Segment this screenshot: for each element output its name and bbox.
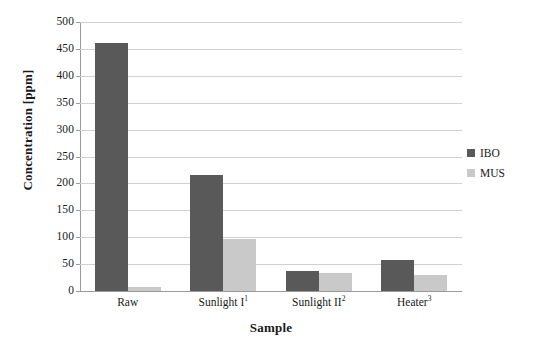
y-tick-mark <box>76 237 80 238</box>
y-tick-mark <box>76 291 80 292</box>
x-tick-label: Sunlight II2 <box>271 296 367 308</box>
x-axis-title: Sample <box>80 320 462 336</box>
legend-swatch-icon <box>467 149 475 157</box>
bar-group <box>80 22 176 291</box>
legend-label: MUS <box>480 167 505 179</box>
legend-item-ibo[interactable]: IBO <box>467 144 529 161</box>
bar-mus-3 <box>414 275 447 291</box>
bar-series-container <box>80 22 462 291</box>
bar-mus-2 <box>319 273 352 291</box>
bar-group <box>176 22 272 291</box>
chart-legend: IBOMUS <box>467 144 529 184</box>
y-tick-mark <box>76 130 80 131</box>
y-tick-label: 500 <box>28 16 74 28</box>
footnote-marker: 3 <box>428 294 432 303</box>
y-tick-mark <box>76 157 80 158</box>
legend-swatch-icon <box>467 169 475 177</box>
footnote-marker: 1 <box>244 294 248 303</box>
bar-group <box>271 22 367 291</box>
x-tick-label: Sunlight I1 <box>176 296 272 308</box>
bar-mus-0 <box>128 287 161 291</box>
x-axis-tick-labels: RawSunlight I1Sunlight II2Heater3 <box>80 296 462 308</box>
footnote-marker: 2 <box>342 294 346 303</box>
bar-ibo-1 <box>190 175 223 291</box>
x-axis-baseline <box>80 291 462 292</box>
plot-area <box>80 22 462 291</box>
bar-ibo-2 <box>286 271 319 291</box>
x-tick-label: Raw <box>80 296 176 308</box>
bar-chart-figure: 500450400350300250200150100500 RawSunlig… <box>0 0 534 361</box>
legend-item-mus[interactable]: MUS <box>467 164 529 181</box>
bar-ibo-0 <box>95 43 128 291</box>
y-tick-mark <box>76 210 80 211</box>
bar-ibo-3 <box>381 260 414 291</box>
bar-mus-1 <box>223 239 256 291</box>
bar-group <box>367 22 463 291</box>
y-tick-mark <box>76 76 80 77</box>
y-tick-mark <box>76 103 80 104</box>
y-tick-label: 0 <box>28 285 74 297</box>
y-tick-mark <box>76 264 80 265</box>
y-tick-mark <box>76 49 80 50</box>
y-tick-label: 100 <box>28 231 74 243</box>
y-tick-mark <box>76 22 80 23</box>
y-tick-mark <box>76 183 80 184</box>
legend-label: IBO <box>480 147 500 159</box>
y-tick-label: 50 <box>28 258 74 270</box>
y-axis-title: Concentration [ppm] <box>20 50 36 210</box>
x-tick-label: Heater3 <box>367 296 463 308</box>
